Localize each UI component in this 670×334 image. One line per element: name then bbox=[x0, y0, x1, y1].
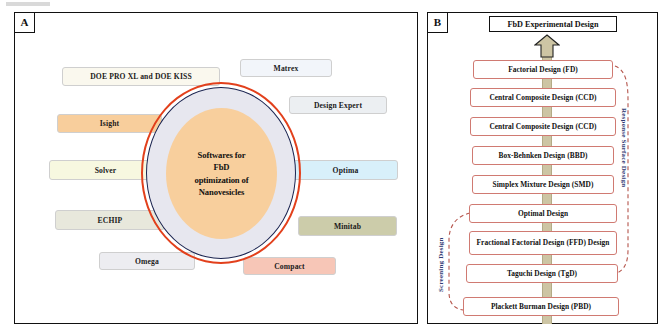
design-box-ccd-1: Central Composite Design (CCD) bbox=[470, 88, 616, 107]
design-box-bbd: Box-Behnken Design (BBD) bbox=[472, 146, 614, 165]
panel-b-tag: B bbox=[428, 13, 448, 33]
design-box-label: Plackett Burman Design (PBD) bbox=[491, 302, 591, 311]
fbd-experimental-design-title: FbD Experimental Design bbox=[489, 16, 617, 32]
software-pill-label: Solver bbox=[95, 166, 117, 175]
design-box-taguchi: Taguchi Design (TgD) bbox=[466, 264, 618, 283]
software-pill-label: Matrex bbox=[274, 64, 299, 73]
software-pill-isight: Isight bbox=[57, 114, 162, 133]
design-box-label: Fractional Factorial Design (FFD) Design bbox=[477, 238, 610, 247]
core-ellipse: Softwares for FbD optimization of Nanove… bbox=[166, 108, 277, 239]
software-pill-label: Minitab bbox=[334, 222, 361, 231]
design-box-label: Optimal Design bbox=[518, 209, 568, 218]
design-box-label: Taguchi Design (TgD) bbox=[507, 269, 577, 278]
up-arrow-icon bbox=[534, 34, 560, 58]
design-box-label: Box-Behnken Design (BBD) bbox=[498, 151, 587, 160]
software-pill-label: DOE PRO XL and DOE KISS bbox=[90, 72, 192, 81]
design-box-ffd: Fractional Factorial Design (FFD) Design bbox=[469, 231, 617, 255]
software-pill-label: Omega bbox=[135, 257, 159, 266]
software-pill-doe-pro-xl: DOE PRO XL and DOE KISS bbox=[62, 67, 220, 86]
design-box-smd: Simplex Mixture Design (SMD) bbox=[472, 175, 614, 194]
design-box-factorial: Factorial Design (FD) bbox=[473, 60, 613, 79]
core-line-2: FbD bbox=[214, 162, 230, 172]
core-line-3: optimization of bbox=[194, 175, 248, 185]
software-pill-label: Design Expert bbox=[314, 101, 362, 110]
design-box-label: Factorial Design (FD) bbox=[508, 65, 578, 74]
software-pill-design-expert: Design Expert bbox=[289, 96, 387, 114]
software-pill-label: Isight bbox=[100, 119, 119, 128]
response-surface-design-caption: Response Surface Design bbox=[620, 108, 628, 187]
software-pill-label: Optima bbox=[333, 166, 359, 175]
software-pill-compact: Compact bbox=[243, 257, 336, 275]
core-line-1: Softwares for bbox=[198, 150, 246, 160]
screening-design-caption: Screening Design bbox=[437, 237, 445, 292]
core-line-4: Nanovesicles bbox=[199, 187, 245, 197]
software-pill-omega: Omega bbox=[99, 252, 195, 270]
software-pill-matrex: Matrex bbox=[240, 59, 332, 77]
software-pill-minitab: Minitab bbox=[298, 216, 397, 236]
design-box-label: Central Composite Design (CCD) bbox=[489, 93, 596, 102]
panel-a-tag: A bbox=[15, 13, 35, 33]
design-box-optimal: Optimal Design bbox=[469, 204, 617, 223]
software-pill-optima: Optima bbox=[293, 160, 398, 180]
software-pill-label: Compact bbox=[274, 262, 305, 271]
figure-canvas: A DOE PRO XL and DOE KISS Matrex Design … bbox=[0, 0, 670, 334]
software-pill-label: ECHIP bbox=[98, 216, 123, 225]
core-ellipse-label: Softwares for FbD optimization of Nanove… bbox=[194, 149, 248, 199]
design-box-ccd-2: Central Composite Design (CCD) bbox=[470, 117, 616, 136]
design-box-pbd: Plackett Burman Design (PBD) bbox=[463, 297, 619, 316]
design-box-label: Simplex Mixture Design (SMD) bbox=[493, 180, 594, 189]
scan-artifact bbox=[6, 2, 50, 6]
design-box-label: Central Composite Design (CCD) bbox=[489, 122, 596, 131]
